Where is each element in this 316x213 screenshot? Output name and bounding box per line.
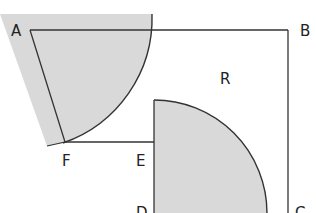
- lower-shaded-quarter-circle: [154, 100, 267, 213]
- label-D: D: [136, 204, 148, 213]
- region-label-R: R: [220, 70, 230, 88]
- geometry-diagram: A B C D E F R: [0, 0, 316, 213]
- label-A: A: [11, 22, 22, 40]
- label-E: E: [136, 152, 145, 170]
- label-B: B: [300, 22, 310, 40]
- upper-shaded-sector: [0, 14, 152, 146]
- label-F: F: [62, 152, 71, 170]
- label-C: C: [295, 204, 305, 213]
